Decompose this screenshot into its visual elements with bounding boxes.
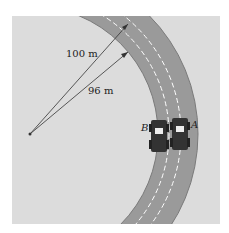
label-car-b: B — [141, 122, 148, 133]
track-diagram — [0, 0, 229, 233]
label-outer-radius: 100 m — [66, 48, 98, 59]
car-b — [149, 120, 169, 152]
car-a — [170, 118, 190, 150]
label-inner-radius: 96 m — [88, 85, 113, 96]
label-car-a: A — [191, 119, 198, 130]
